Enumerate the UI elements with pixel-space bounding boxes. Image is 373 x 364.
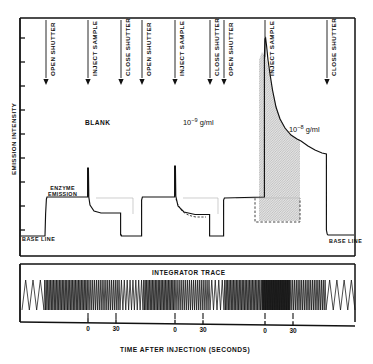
event-marker-arrowhead [172,79,177,85]
event-marker-label: INJECT SAMPLE [91,21,98,76]
x-axis-tick-label: 0 [263,327,267,334]
annotation-base-line-right: BASE LINE [329,238,362,244]
annotation-blank: BLANK [85,119,111,126]
emission-trace [21,38,354,236]
x-axis-tick-label: 30 [199,326,206,333]
integrator-trace-title: INTEGRATOR TRACE [152,269,225,276]
event-marker-label: INJECT SAMPLE [268,21,275,76]
x-axis-tick-label: 0 [173,326,177,333]
event-marker-label: OPEN SHUTTER [145,22,152,76]
x-axis-tick-label: 30 [289,327,296,334]
event-marker-arrowhead [85,79,90,85]
enzyme-emission-line2: EMISSION [48,191,77,197]
conc-right-mantissa: 10 [289,125,297,134]
event-marker-label: OPEN SHUTTER [49,22,56,76]
event-marker-label: CLOSE SHUTTER [330,18,337,76]
conc-mid-units: g/ml [200,118,214,127]
annotation-concentration-right: 10−8 g/ml [289,124,320,134]
annotation-concentration-mid: 10−9 g/ml [183,117,214,127]
event-marker-arrowhead [118,79,123,85]
event-marker-arrowhead [139,79,144,85]
enzyme-emission-line1: ENZYME [50,185,75,191]
figure-root: EMISSION INTENSITY OPEN SHUTTERINJECT SA… [0,0,373,364]
x-axis-tick-label: 30 [112,325,119,332]
conc-mid-mantissa: 10 [183,118,191,127]
x-axis [20,313,355,326]
x-axis-label: TIME AFTER INJECTION (SECONDS) [120,346,250,353]
event-marker-arrows [43,20,329,85]
event-marker-arrowhead [207,79,212,85]
annotation-base-line-left: BASE LINE [22,236,55,242]
event-marker-label: INJECT SAMPLE [178,21,185,76]
annotation-enzyme-emission: ENZYME EMISSION [48,185,77,198]
event-marker-label: OPEN SHUTTER [227,22,234,76]
event-marker-label: CLOSE SHUTTER [124,18,131,76]
conc-mid-exponent: −9 [191,117,197,123]
conc-right-units: g/ml [306,125,320,134]
event-marker-arrowhead [43,79,48,85]
event-marker-label: CLOSE SHUTTER [213,18,220,76]
conc-right-exponent: −8 [297,124,303,130]
event-marker-arrowhead [324,79,329,85]
upper-panel-frame [20,18,355,256]
event-marker-arrowhead [221,79,226,85]
integrator-trace-line [22,280,355,310]
x-axis-tick-label: 0 [86,325,90,332]
y-axis-label: EMISSION INTENSITY [10,103,17,175]
